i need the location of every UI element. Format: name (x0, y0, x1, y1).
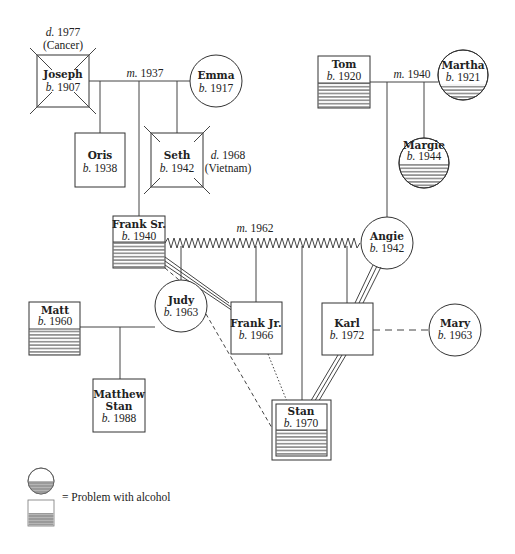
person-stan-identified-patient: Stan b. 1970 (272, 400, 331, 460)
close-relationship-angie-karl (355, 265, 381, 303)
person-oris: Oris b. 1938 (75, 133, 125, 187)
legend: = Problem with alcohol (27, 468, 170, 526)
svg-text:Angie: Angie (369, 230, 404, 242)
alcohol-hatching (398, 163, 450, 189)
person-tom: Tom b. 1920 (318, 56, 370, 108)
alcohol-hatching (114, 242, 165, 268)
person-matt: Matt b. 1960 (29, 302, 80, 355)
person-angie: Angie b. 1942 (361, 217, 413, 269)
svg-text:b. 1921: b. 1921 (446, 71, 481, 83)
svg-text:b. 1938: b. 1938 (83, 162, 118, 174)
marriage-label-1940: m. 1940 (393, 68, 430, 80)
svg-text:b. 1963: b. 1963 (438, 329, 473, 341)
marriage-matt-judy (80, 327, 155, 379)
genogram-diagram: m. 1937 d. 1977 (Cancer) Joseph b. 1907 … (0, 0, 515, 554)
seth-death: d. 1968 (211, 149, 246, 161)
marriage-label-1962: m. 1962 (236, 222, 273, 234)
svg-text:Seth: Seth (164, 149, 191, 161)
person-emma: Emma b. 1917 (190, 55, 242, 107)
svg-text:b. 1988: b. 1988 (102, 412, 137, 424)
svg-text:b. 1972: b. 1972 (330, 329, 365, 341)
legend-circle-icon (27, 468, 55, 495)
svg-text:Judy: Judy (167, 294, 195, 306)
person-karl: Karl b. 1972 (322, 303, 373, 355)
svg-text:Frank Sr.: Frank Sr. (112, 218, 166, 230)
svg-text:b. 1966: b. 1966 (239, 329, 274, 341)
person-joseph: d. 1977 (Cancer) Joseph b. 1907 (30, 26, 96, 114)
conflict-zigzag-line (165, 238, 360, 248)
svg-text:Mary: Mary (440, 317, 471, 329)
svg-text:b. 1940: b. 1940 (122, 230, 157, 242)
person-seth: Seth b. 1942 d. 1968 (Vietnam) (144, 126, 251, 194)
svg-text:b. 1960: b. 1960 (38, 315, 73, 327)
svg-text:b. 1942: b. 1942 (160, 162, 195, 174)
svg-text:b. 1920: b. 1920 (327, 70, 362, 82)
svg-text:Frank Jr.: Frank Jr. (230, 317, 281, 329)
svg-text:b. 1907: b. 1907 (46, 81, 81, 93)
svg-text:Martha: Martha (441, 59, 484, 71)
svg-text:Joseph: Joseph (42, 68, 83, 80)
alcohol-hatching (319, 83, 370, 108)
alcohol-hatching (277, 430, 327, 456)
marriage-label-1937: m. 1937 (126, 67, 163, 79)
legend-square-icon (28, 500, 54, 526)
seth-death-cause: (Vietnam) (205, 162, 252, 175)
svg-text:b. 1944: b. 1944 (407, 150, 442, 162)
svg-text:b. 1942: b. 1942 (370, 242, 405, 254)
svg-text:Emma: Emma (197, 69, 234, 81)
person-mary: Mary b. 1963 (429, 304, 481, 356)
svg-text:Stan: Stan (288, 405, 315, 417)
svg-text:Stan: Stan (106, 400, 133, 412)
svg-text:Karl: Karl (334, 317, 359, 329)
svg-text:Tom: Tom (332, 58, 357, 70)
person-frank-sr: Frank Sr. b. 1940 (112, 216, 166, 268)
person-margie: Margie b. 1944 (398, 138, 450, 189)
female-circle (190, 55, 242, 107)
alcohol-hatching (437, 84, 489, 102)
person-matthew-stan: Matthew Stan b. 1988 (93, 379, 146, 432)
person-frank-jr: Frank Jr. b. 1966 (230, 302, 282, 354)
joseph-death: d. 1977 (46, 26, 81, 38)
person-judy: Judy b. 1963 (155, 280, 207, 332)
svg-text:Matthew: Matthew (93, 388, 145, 400)
alcohol-hatching (30, 329, 80, 355)
close-relationship-karl-stan (309, 355, 346, 404)
svg-text:b. 1917: b. 1917 (199, 82, 234, 94)
svg-text:b. 1963: b. 1963 (164, 306, 199, 318)
svg-text:b. 1970: b. 1970 (284, 417, 319, 429)
svg-text:Oris: Oris (88, 149, 113, 161)
legend-text: = Problem with alcohol (62, 491, 170, 503)
person-martha: Martha b. 1921 (437, 50, 489, 102)
joseph-death-cause: (Cancer) (43, 39, 83, 52)
